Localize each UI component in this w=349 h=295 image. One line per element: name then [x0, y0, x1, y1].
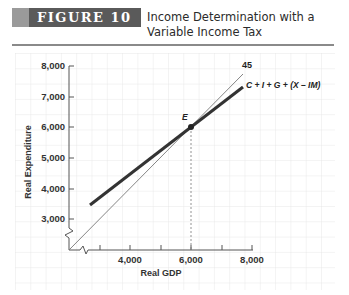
line-aggregate-expenditure-label: C + I + G + (X – IM): [246, 80, 320, 90]
x-tick-label: 4,000: [110, 254, 150, 265]
line-45-label: 45: [242, 60, 252, 70]
equilibrium-point: [188, 124, 194, 130]
x-tick-label: 6,000: [171, 254, 211, 265]
y-axis-label: Real Expenditure: [23, 125, 33, 199]
y-tick-label: 3,000: [25, 213, 65, 224]
y-tick-label: 8,000: [25, 60, 65, 71]
equilibrium-point-label: E: [182, 112, 188, 122]
chart-canvas: [0, 0, 349, 295]
y-tick-label: 7,000: [25, 91, 65, 102]
x-tick-label: 8,000: [232, 254, 272, 265]
x-axis-label: Real GDP: [140, 268, 181, 278]
